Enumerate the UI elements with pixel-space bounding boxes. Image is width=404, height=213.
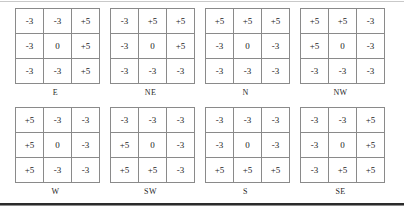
kernel-cell: 0: [139, 34, 167, 59]
kernel-label-ne: NE: [110, 88, 191, 97]
kernel-cell: -3: [206, 133, 234, 158]
kernel-cell: -3: [44, 59, 72, 84]
kernel-cell: -3: [72, 133, 100, 158]
kernel-cell: +5: [357, 108, 385, 133]
kernel-cell: +5: [16, 158, 44, 183]
kernel-cell: -3: [206, 34, 234, 59]
kernel-cell: -3: [329, 59, 357, 84]
kernel-cell: -3: [167, 133, 195, 158]
kernel-cell: -3: [301, 59, 329, 84]
kernel-cell: +5: [234, 158, 262, 183]
kernel-block-n: +5 +5 +5 -3 0 -3 -3 -3 -3 N: [205, 8, 286, 97]
kernel-block-se: -3 -3 +5 -3 0 +5 -3 +5 +5 S: [300, 107, 381, 196]
kernel-cell: -3: [44, 108, 72, 133]
kernel-grid-row: -3 -3 -3: [301, 59, 385, 84]
kernel-cell: 0: [44, 34, 72, 59]
kernel-label-w: W: [15, 187, 96, 196]
kernel-grid-nw: +5 +5 -3 +5 0 -3 -3 -3 -3: [300, 8, 385, 84]
kernel-cell: +5: [206, 9, 234, 34]
kernel-cell: +5: [301, 9, 329, 34]
kernel-cell: +5: [357, 133, 385, 158]
kernel-cell: +5: [262, 9, 290, 34]
kernel-cell: -3: [262, 59, 290, 84]
kernel-grid-row: -3 -3 -3: [206, 108, 290, 133]
kernel-cell: -3: [206, 59, 234, 84]
kernel-cell: +5: [357, 158, 385, 183]
kernel-cell: +5: [329, 9, 357, 34]
kernel-grid-row: +5 -3 -3: [16, 158, 100, 183]
kernel-cell: -3: [301, 158, 329, 183]
kernel-cell: -3: [139, 108, 167, 133]
kernel-cell: -3: [72, 158, 100, 183]
kernel-cell: -3: [357, 34, 385, 59]
kernel-grid-row: +5 -3 -3: [16, 108, 100, 133]
kernel-cell: -3: [234, 59, 262, 84]
kernel-cell: 0: [139, 133, 167, 158]
kernel-grid-e: -3 -3 +5 -3 0 +5 -3 -3 +5: [15, 8, 100, 84]
kernel-grid-row: -3 0 +5: [16, 34, 100, 59]
kernel-label-e: E: [15, 88, 96, 97]
kernel-grid-row: -3 0 -3: [206, 34, 290, 59]
kernel-cell: -3: [16, 59, 44, 84]
kernel-cell: -3: [357, 9, 385, 34]
kernel-block-w: +5 -3 -3 +5 0 -3 +5 -3 -3 W: [15, 107, 96, 196]
kernel-cell: -3: [16, 34, 44, 59]
bottom-divider-rule-shadow: [0, 205, 404, 206]
kernel-label-n: N: [205, 88, 286, 97]
kernel-figure: -3 -3 +5 -3 0 +5 -3 -3 +5 E: [0, 0, 404, 213]
kernel-grid-row: +5 +5 -3: [111, 158, 195, 183]
kernel-grid-row: -3 +5 +5: [111, 9, 195, 34]
kernel-grid-row: -3 0 -3: [206, 133, 290, 158]
kernel-grid-w: +5 -3 -3 +5 0 -3 +5 -3 -3: [15, 107, 100, 183]
kernel-cell: +5: [111, 133, 139, 158]
kernel-cell: +5: [167, 9, 195, 34]
kernel-grid-row: -3 -3 +5: [16, 59, 100, 84]
kernel-grid-row: +5 +5 +5: [206, 9, 290, 34]
kernel-cell: +5: [301, 34, 329, 59]
kernel-row-bottom: +5 -3 -3 +5 0 -3 +5 -3 -3 W: [0, 107, 404, 207]
kernel-label-s: S: [205, 187, 286, 196]
kernel-cell: +5: [16, 108, 44, 133]
kernel-cell: -3: [234, 108, 262, 133]
kernel-cell: -3: [72, 108, 100, 133]
kernel-cell: +5: [139, 158, 167, 183]
kernel-label-sw: SW: [110, 187, 191, 196]
kernel-cell: -3: [111, 34, 139, 59]
kernel-cell: -3: [262, 34, 290, 59]
kernel-grid-row: +5 0 -3: [16, 133, 100, 158]
kernel-grid-row: -3 -3 +5: [301, 108, 385, 133]
kernel-grid-row: +5 +5 +5: [206, 158, 290, 183]
kernel-grid-se: -3 -3 +5 -3 0 +5 -3 +5 +5: [300, 107, 385, 183]
kernel-grid-row: -3 -3 -3: [111, 59, 195, 84]
kernel-cell: -3: [262, 133, 290, 158]
kernel-cell: +5: [234, 9, 262, 34]
kernel-grid-row: -3 -3 -3: [206, 59, 290, 84]
kernel-cell: -3: [167, 108, 195, 133]
kernel-block-s: -3 -3 -3 -3 0 -3 +5 +5 +5 S: [205, 107, 286, 196]
kernel-cell: +5: [72, 34, 100, 59]
kernel-cell: -3: [111, 108, 139, 133]
kernel-row-top: -3 -3 +5 -3 0 +5 -3 -3 +5 E: [0, 8, 404, 108]
kernel-cell: +5: [329, 158, 357, 183]
kernel-cell: -3: [206, 108, 234, 133]
kernel-grid-ne: -3 +5 +5 -3 0 +5 -3 -3 -3: [110, 8, 195, 84]
kernel-cell: -3: [167, 59, 195, 84]
kernel-grid-sw: -3 -3 -3 +5 0 -3 +5 +5 -3: [110, 107, 195, 183]
kernel-cell: -3: [357, 59, 385, 84]
kernel-block-nw: +5 +5 -3 +5 0 -3 -3 -3 -3 N: [300, 8, 381, 97]
kernel-cell: +5: [262, 158, 290, 183]
kernel-cell: +5: [72, 9, 100, 34]
kernel-grid-row: -3 -3 -3: [111, 108, 195, 133]
kernel-cell: +5: [72, 59, 100, 84]
kernel-cell: -3: [167, 158, 195, 183]
kernel-cell: -3: [111, 9, 139, 34]
kernel-block-e: -3 -3 +5 -3 0 +5 -3 -3 +5 E: [15, 8, 96, 97]
kernel-cell: +5: [111, 158, 139, 183]
kernel-label-se: SE: [300, 187, 381, 196]
kernel-cell: -3: [301, 108, 329, 133]
kernel-grid-row: +5 +5 -3: [301, 9, 385, 34]
kernel-cell: -3: [44, 158, 72, 183]
top-divider-rule: [0, 1, 404, 2]
kernel-cell: -3: [111, 59, 139, 84]
kernel-grid-row: +5 0 -3: [111, 133, 195, 158]
